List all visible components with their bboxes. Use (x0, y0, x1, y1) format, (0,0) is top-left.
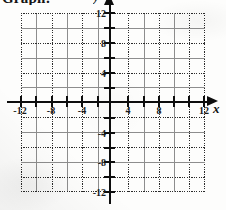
x-tick-label: 8 (148, 106, 170, 116)
x-axis-tick (97, 96, 99, 107)
y-axis-label: y (93, 0, 111, 5)
figure-heading-text: Graph: (2, 0, 72, 5)
x-tick-label: -4 (71, 106, 93, 116)
x-tick-label: -8 (40, 106, 62, 116)
y-tick-label: -4 (84, 129, 106, 139)
y-axis (109, 2, 111, 204)
y-axis-tick (104, 176, 115, 178)
y-tick-label: -8 (84, 158, 106, 168)
y-axis-tick (104, 57, 115, 59)
x-tick-label: 12 (193, 106, 215, 116)
y-axis-tick (104, 117, 115, 119)
y-axis-label-text: y (93, 0, 111, 4)
y-axis-tick (104, 87, 115, 89)
x-axis-label: x (213, 101, 220, 117)
x-axis-tick (143, 96, 145, 107)
x-axis-tick (35, 96, 37, 107)
y-tick-label: -12 (84, 188, 106, 198)
y-tick-label: 12 (84, 9, 106, 19)
y-axis-tick (104, 147, 115, 149)
x-axis-tick (66, 96, 68, 107)
x-tick-label: -12 (9, 106, 31, 116)
y-tick-label: 8 (84, 39, 106, 49)
x-tick-label: 4 (117, 106, 139, 116)
x-axis-tick (188, 96, 190, 107)
y-tick-label: 4 (84, 69, 106, 79)
y-axis-tick (104, 27, 115, 29)
x-axis-tick (173, 96, 175, 107)
figure-heading: Graph: (2, 0, 72, 5)
coordinate-plane-figure: Graph: (0, 0, 226, 210)
